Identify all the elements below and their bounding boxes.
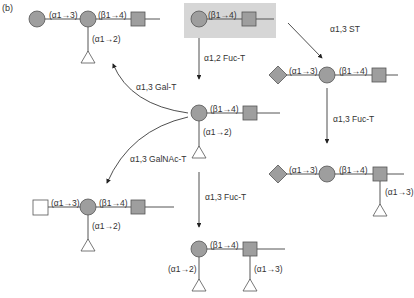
linkage-label: (β1→4) [98,10,127,20]
linkage-label: (α1→2) [168,264,197,274]
fucose-triangle-icon [373,204,387,216]
galactose-circle-icon [319,166,335,182]
linkage-label: (β1→4) [208,10,237,20]
linkage-label: (α1→3) [254,264,283,274]
enzyme-label: α1,3 GalNAc-T [130,154,186,164]
arrow-st-13 [288,23,322,58]
fucose-triangle-icon [81,51,95,63]
glcnac-square-icon [242,12,256,26]
galactose-circle-icon [191,11,207,27]
galactose-circle-icon [191,105,207,121]
glycan-pathway-diagram [0,0,414,298]
enzyme-label: α1,3 Fuc-T [205,192,246,202]
arrow-galnac-t-13 [107,117,188,183]
precursor-structure [184,3,276,38]
fucose-triangle-icon [192,279,206,291]
enzyme-label: α1,2 Fuc-T [204,53,245,63]
linkage-label: (α1→3) [49,10,78,20]
linkage-label: (α1→2) [203,127,232,137]
glcnac-square-icon [372,68,386,82]
linkage-label: (β1→4) [339,165,368,175]
glcnac-square-icon [243,242,257,256]
sialic-acid-diamond-icon [269,66,287,84]
linkage-label: (α1→3) [289,66,318,76]
linkage-label: (β1→4) [99,198,128,208]
enzyme-label: α1,3 ST [330,24,360,34]
enzyme-label: α1,3 Gal-T [136,82,176,92]
glcnac-square-icon [373,167,387,181]
enzyme-label: α1,3 Fuc-T [333,114,374,124]
galactose-circle-icon [80,11,96,27]
galactose-circle-icon [191,241,207,257]
glcnac-square-icon [243,106,257,120]
linkage-label: (β1→4) [210,104,239,114]
galactose-circle-icon [319,67,335,83]
linkage-label: (α1→2) [92,34,121,44]
fucose-triangle-icon [192,146,206,158]
fucose-triangle-icon [243,279,257,291]
glcnac-square-icon [131,12,145,26]
galactose-circle-icon [80,199,96,215]
linkage-label: (α1→3) [51,198,80,208]
linkage-label: (β1→4) [339,66,368,76]
sialic-acid-diamond-icon [269,165,287,183]
galactose-circle-icon [29,11,45,27]
fucose-triangle-icon [81,239,95,251]
galnac-square-icon [33,200,48,215]
linkage-label: (β1→4) [210,240,239,250]
linkage-label: (α1→2) [92,221,121,231]
linkage-label: (α1→3) [289,165,318,175]
glcnac-square-icon [131,200,145,214]
linkage-label: (α1→3) [385,187,414,197]
